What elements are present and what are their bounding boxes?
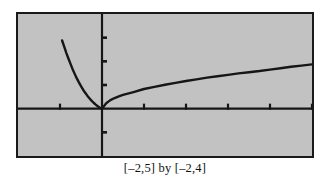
curve-left-branch: [62, 41, 102, 109]
graphing-calculator-viewport: [16, 12, 314, 158]
plot-svg: [18, 14, 312, 156]
viewport-range-caption: [–2,5] by [–2,4]: [0, 161, 330, 176]
tick-marks-group: [60, 38, 312, 133]
curve-group: [62, 41, 312, 109]
curve-right-branch: [102, 64, 312, 108]
figure-container: [–2,5] by [–2,4]: [0, 0, 330, 184]
